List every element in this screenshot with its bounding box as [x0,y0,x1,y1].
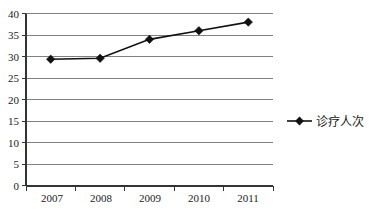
y-axis-tick-label-40: 40 [8,8,20,20]
y-axis-tick-label-15: 15 [8,115,20,127]
chart-canvas: 40 35 30 25 20 15 10 5 0 2007 2008 2009 … [0,0,371,214]
y-axis-tick-label-0: 0 [14,180,20,192]
chart-background [0,0,371,214]
legend-label-series-1: 诊疗人次 [316,115,364,129]
y-axis-tick-label-35: 35 [8,29,20,41]
y-axis-tick-label-30: 30 [8,51,20,63]
x-axis-tick-label-2010: 2010 [188,192,211,204]
y-axis-tick-label-20: 20 [8,94,20,106]
y-axis-tick-label-10: 10 [8,137,20,149]
line-chart: 40 35 30 25 20 15 10 5 0 2007 2008 2009 … [0,0,371,214]
x-axis-tick-label-2007: 2007 [41,192,64,204]
y-axis-tick-label-25: 25 [8,72,20,84]
x-axis-tick-label-2011: 2011 [237,192,259,204]
x-axis-tick-label-2008: 2008 [90,192,113,204]
x-axis-tick-label-2009: 2009 [139,192,162,204]
y-axis-tick-label-5: 5 [14,158,20,170]
